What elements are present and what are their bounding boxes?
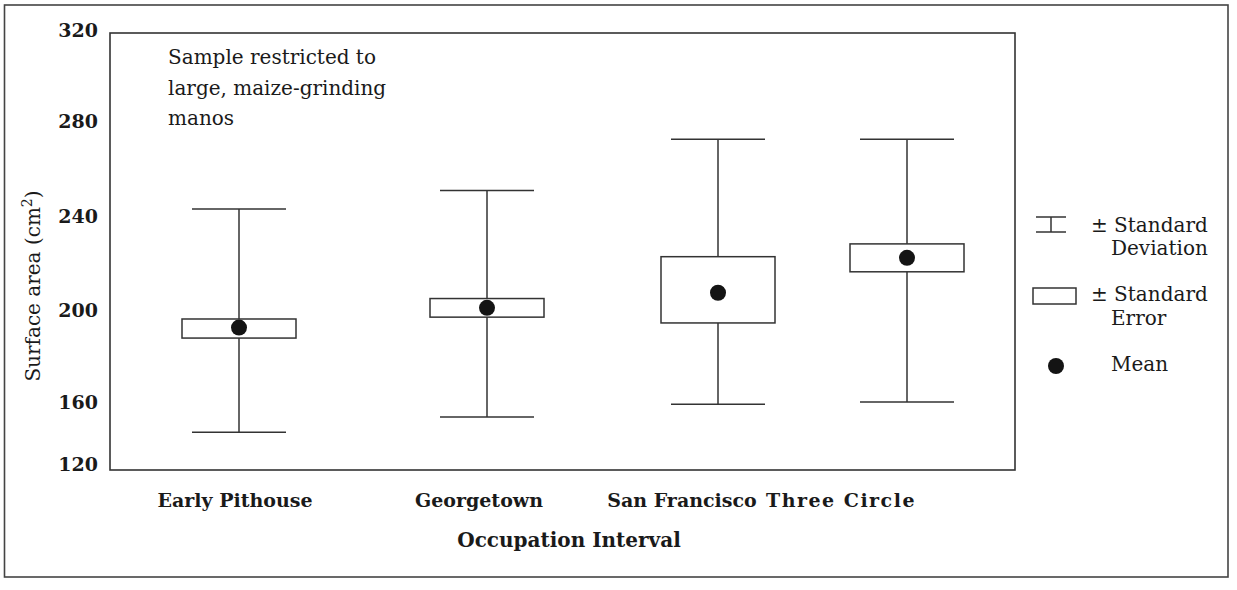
mean-dot xyxy=(899,250,915,266)
x-category-label: San Francisco xyxy=(607,489,756,511)
y-tick-label: 200 xyxy=(58,299,98,321)
y-tick-label: 120 xyxy=(58,453,98,475)
x-axis-title: Occupation Interval xyxy=(457,528,681,552)
y-tick-label: 160 xyxy=(58,391,98,413)
x-category-label: Georgetown xyxy=(415,489,543,511)
box-plot-svg: 320280240200160120 Surface area (cm2) Sa… xyxy=(0,0,1237,590)
legend-se-line2: Error xyxy=(1111,306,1167,330)
box-group xyxy=(850,139,964,402)
y-tick-label: 320 xyxy=(58,19,98,41)
annotation-line-3: manos xyxy=(168,106,234,130)
annotation-note: Sample restricted to large, maize-grindi… xyxy=(168,45,386,130)
annotation-line-1: Sample restricted to xyxy=(168,45,376,69)
x-axis-category-labels: Early PithouseGeorgetownSan FranciscoThr… xyxy=(157,489,916,511)
chart-figure: 320280240200160120 Surface area (cm2) Sa… xyxy=(0,0,1237,590)
sd-bracket-icon xyxy=(1036,217,1066,232)
box-group xyxy=(661,139,775,404)
box-group xyxy=(182,209,296,432)
box-group xyxy=(430,190,544,417)
y-axis-tick-labels: 320280240200160120 xyxy=(58,19,98,475)
se-box-icon xyxy=(1033,288,1076,304)
legend-item-mean: Mean xyxy=(1048,352,1168,376)
mean-dot xyxy=(479,300,495,316)
y-tick-label: 280 xyxy=(58,110,98,132)
legend-se-line1: ± Standard xyxy=(1091,282,1208,306)
legend-mean-label: Mean xyxy=(1111,352,1168,376)
annotation-line-2: large, maize-grinding xyxy=(168,76,386,100)
mean-dot xyxy=(231,320,247,336)
box-series xyxy=(182,139,964,432)
y-axis-title: Surface area (cm2) xyxy=(19,190,45,381)
legend-item-se: ± Standard Error xyxy=(1033,282,1208,330)
y-tick-label: 240 xyxy=(58,205,98,227)
legend-sd-line1: ± Standard xyxy=(1091,213,1208,237)
mean-dot xyxy=(710,285,726,301)
legend-item-sd: ± Standard Deviation xyxy=(1036,213,1208,260)
mean-dot-icon xyxy=(1048,358,1064,374)
x-category-label: Early Pithouse xyxy=(157,489,312,511)
legend-sd-line2: Deviation xyxy=(1111,236,1208,260)
x-category-label: Three Circle xyxy=(766,489,916,511)
legend: ± Standard Deviation ± Standard Error Me… xyxy=(1033,213,1208,376)
